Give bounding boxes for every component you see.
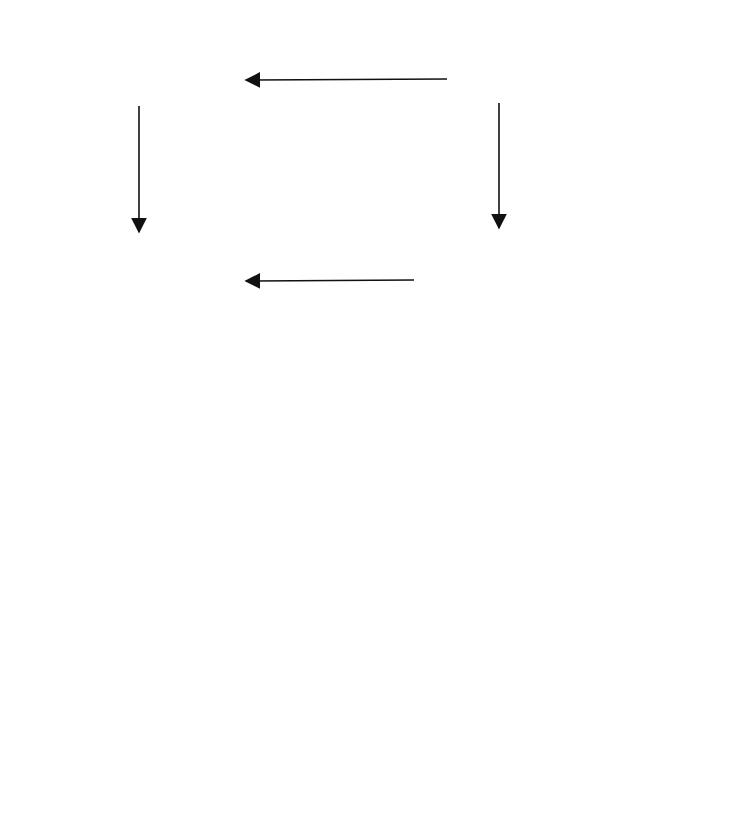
arrow-ldl-to-risk <box>246 79 447 80</box>
flowchart-canvas <box>0 0 751 821</box>
arrow-modified-to-endothelial <box>246 280 414 281</box>
arrows-layer <box>0 0 751 821</box>
